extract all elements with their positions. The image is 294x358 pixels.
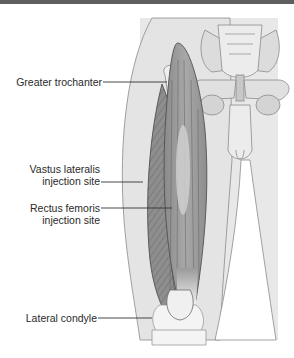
label-vastus-lateralis-line1: Vastus lateralis (4, 163, 100, 175)
label-greater-trochanter: Greater trochanter (10, 76, 102, 88)
label-lateral-condyle: Lateral condyle (6, 312, 97, 324)
label-rectus-femoris-line1: Rectus femoris (4, 202, 100, 214)
label-rectus-femoris: Rectus femoris injection site (4, 202, 100, 226)
label-rectus-femoris-line2: injection site (4, 214, 100, 226)
label-vastus-lateralis: Vastus lateralis injection site (4, 163, 100, 187)
label-vastus-lateralis-line2: injection site (4, 175, 100, 187)
rectus-femoris-injection-area (176, 125, 190, 215)
